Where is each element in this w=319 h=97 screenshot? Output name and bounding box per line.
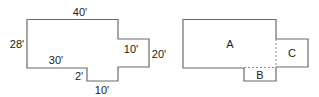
dim-right: 20' <box>152 48 166 60</box>
dim-bottom-notch: 10' <box>95 84 109 96</box>
dim-top: 40' <box>73 6 87 18</box>
dim-bottom-left: 30' <box>49 54 63 66</box>
dim-left: 28' <box>10 38 24 50</box>
diagram-canvas: 40' 28' 30' 2' 10' 10' 20' A B C <box>0 0 319 97</box>
region-label-c: C <box>288 47 296 59</box>
dim-right-inner: 10' <box>124 43 138 55</box>
dim-step: 2' <box>75 70 83 82</box>
region-label-b: B <box>256 69 263 81</box>
region-label-a: A <box>226 38 234 50</box>
